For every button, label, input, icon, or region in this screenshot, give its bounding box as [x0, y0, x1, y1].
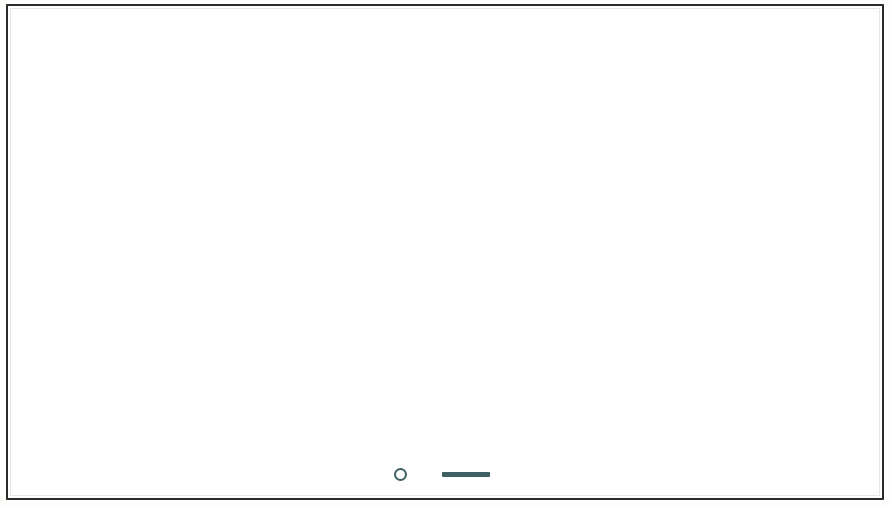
- open-circle-icon: [394, 468, 407, 481]
- chart-legend: [0, 468, 892, 481]
- legend-item-model[interactable]: [442, 472, 499, 476]
- plot-area: [0, 0, 892, 508]
- chart-screenshot: [0, 0, 892, 508]
- legend-item-actual[interactable]: [394, 468, 416, 481]
- line-swatch-icon: [442, 472, 490, 476]
